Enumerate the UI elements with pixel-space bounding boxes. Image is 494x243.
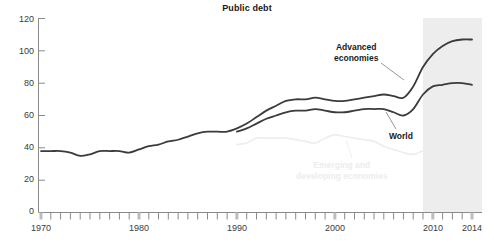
- y-axis-ticks: [39, 19, 46, 213]
- leader-line-emerging: [346, 140, 352, 158]
- projection-shade-band: [423, 18, 482, 212]
- leader-line-advanced: [381, 63, 404, 80]
- leader-line-world: [386, 112, 396, 129]
- x-axis-ticks: [41, 213, 472, 220]
- public-debt-chart: Public debt 120 100 80 60 40 20 0 1970 1…: [0, 0, 494, 243]
- chart-plot-area: [0, 0, 494, 243]
